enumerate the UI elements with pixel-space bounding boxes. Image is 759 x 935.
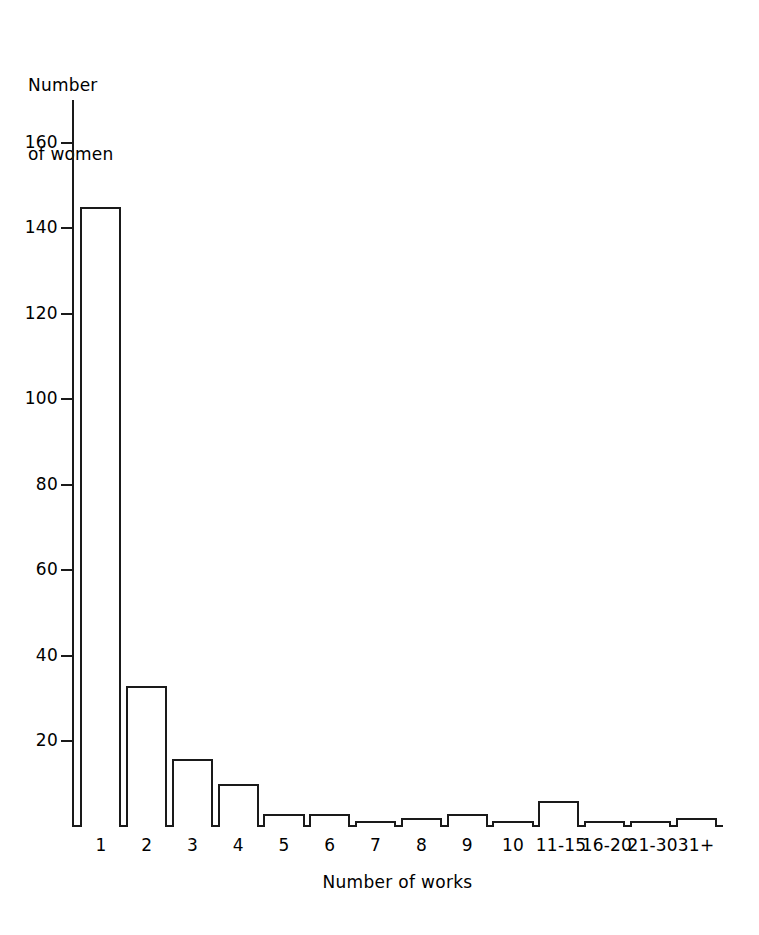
- bar: [401, 818, 442, 827]
- bar: [309, 814, 350, 827]
- bar: [584, 821, 625, 827]
- x-axis-tick-label: 4: [215, 835, 261, 855]
- x-axis-title: Number of works: [72, 872, 723, 892]
- x-axis-tick-label: 1: [78, 835, 124, 855]
- plot-area: 20406080100120140160 1234567891011-1516-…: [72, 100, 723, 827]
- y-axis-title-line-1: Number: [28, 74, 114, 97]
- x-axis-tick-label: 6: [307, 835, 353, 855]
- x-axis-tick-label: 9: [444, 835, 490, 855]
- y-axis-tick: [61, 740, 72, 742]
- y-axis-tick-label: 140: [6, 219, 58, 236]
- y-axis-tick: [61, 313, 72, 315]
- y-axis-tick-label: 20: [6, 732, 58, 749]
- bar: [126, 686, 167, 827]
- x-axis-tick-label: 10: [490, 835, 536, 855]
- bar: [630, 821, 671, 827]
- y-axis-tick: [61, 227, 72, 229]
- x-axis-tick-label: 7: [353, 835, 399, 855]
- x-axis-tick-label: 16-20: [582, 835, 628, 855]
- y-axis-tick: [61, 142, 72, 144]
- bar: [447, 814, 488, 827]
- y-axis-tick-label: 160: [6, 134, 58, 151]
- bar: [80, 207, 121, 827]
- y-axis-tick: [61, 398, 72, 400]
- x-axis-tick-label: 21-30: [627, 835, 673, 855]
- bar: [492, 821, 533, 827]
- bar: [676, 818, 717, 827]
- bar: [355, 821, 396, 827]
- y-axis-tick: [61, 484, 72, 486]
- x-axis-tick-label: 8: [399, 835, 445, 855]
- bar: [172, 759, 213, 827]
- bar: [538, 801, 579, 827]
- histogram-figure: Number of women 20406080100120140160 123…: [0, 0, 759, 935]
- y-axis-tick-label: 40: [6, 647, 58, 664]
- y-axis-tick-label: 80: [6, 476, 58, 493]
- y-axis-tick-label: 60: [6, 561, 58, 578]
- x-axis-tick-label: 11-15: [536, 835, 582, 855]
- x-axis-tick-label: 31+: [673, 835, 719, 855]
- bars-layer: [72, 100, 723, 827]
- x-axis-tick-label: 5: [261, 835, 307, 855]
- bar: [218, 784, 259, 827]
- x-axis-tick-labels: 1234567891011-1516-2021-3031+: [72, 835, 723, 865]
- y-axis-tick-label: 120: [6, 305, 58, 322]
- y-axis-tick-label: 100: [6, 390, 58, 407]
- bar: [263, 814, 304, 827]
- y-axis-tick: [61, 655, 72, 657]
- y-axis-tick: [61, 569, 72, 571]
- x-axis-tick-label: 2: [124, 835, 170, 855]
- x-axis-tick-label: 3: [170, 835, 216, 855]
- y-axis-tick-labels: 20406080100120140160: [6, 100, 58, 827]
